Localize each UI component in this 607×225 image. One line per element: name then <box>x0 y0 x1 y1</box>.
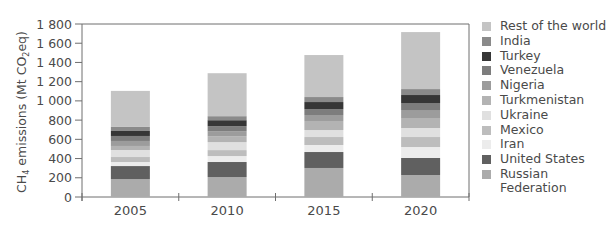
legend-item: Rest of the world <box>482 19 607 34</box>
bar-segment-venezuela <box>401 103 440 110</box>
bar-segment-nigeria <box>111 141 150 146</box>
bars <box>111 32 440 197</box>
legend-swatch-icon <box>482 52 491 61</box>
legend-swatch-icon <box>482 22 491 31</box>
y-tick-label: 600 <box>48 132 72 147</box>
bar-segment-india <box>401 89 440 95</box>
bar-segment-iran <box>304 145 343 152</box>
x-tick-label: 2005 <box>114 203 147 218</box>
legend-swatch-icon <box>482 66 491 75</box>
bar-segment-india <box>111 127 150 131</box>
legend-swatch-icon <box>482 170 491 179</box>
bar-segment-mexico <box>208 150 247 156</box>
bar-segment-united-states <box>401 158 440 175</box>
bar-segment-venezuela <box>111 136 150 141</box>
bar-segment-ukraine <box>208 142 247 150</box>
bar-segment-iran <box>401 147 440 158</box>
bar-segment-nigeria <box>208 131 247 136</box>
y-tick-label: 400 <box>48 151 72 166</box>
legend-swatch-icon <box>482 37 491 46</box>
stacked-bar-chart: 02004006008001 0001 2001 4001 6001 800 2… <box>0 0 607 225</box>
legend-label: Russian Federation <box>500 167 567 196</box>
bar-segment-turkmenistan <box>304 121 343 130</box>
bar-2010 <box>208 73 247 197</box>
x-tick-label: 2015 <box>307 203 340 218</box>
bar-segment-united-states <box>111 166 150 179</box>
bar-segment-rest-of-the-world <box>111 91 150 127</box>
bar-2015 <box>304 55 343 197</box>
bar-segment-nigeria <box>304 115 343 121</box>
bar-segment-iran <box>208 156 247 162</box>
legend-label: Venezuela <box>500 63 564 78</box>
bar-segment-turkmenistan <box>401 118 440 128</box>
x-tick-label: 2020 <box>404 203 437 218</box>
bar-segment-iran <box>111 162 150 166</box>
legend-item: Turkey <box>482 49 607 64</box>
y-tick-label: 0 <box>64 190 72 205</box>
bar-segment-venezuela <box>208 126 247 131</box>
bar-segment-russian-federation <box>304 168 343 197</box>
y-tick-label: 1 600 <box>36 36 72 51</box>
legend-item: Ukraine <box>482 108 607 123</box>
bar-segment-ukraine <box>401 128 440 137</box>
legend-label: Mexico <box>500 123 544 138</box>
legend-item: Russian Federation <box>482 167 607 196</box>
bar-2005 <box>111 91 150 197</box>
y-tick-label: 200 <box>48 170 72 185</box>
legend-item: Iran <box>482 137 607 152</box>
legend-swatch-icon <box>482 81 491 90</box>
legend-item: Turkmenistan <box>482 93 607 108</box>
legend-label: Turkmenistan <box>500 93 584 108</box>
bar-2020 <box>401 32 440 197</box>
legend-label: United States <box>500 152 585 167</box>
bar-segment-rest-of-the-world <box>208 73 247 116</box>
legend-label: India <box>500 34 531 49</box>
legend-label: Rest of the world <box>500 19 606 34</box>
bar-segment-rest-of-the-world <box>304 55 343 97</box>
legend-swatch-icon <box>482 140 491 149</box>
legend-item: Mexico <box>482 123 607 138</box>
x-tick-label: 2010 <box>211 203 244 218</box>
bar-segment-united-states <box>304 152 343 168</box>
legend-label: Nigeria <box>500 78 545 93</box>
legend-swatch-icon <box>482 111 491 120</box>
bar-segment-venezuela <box>304 109 343 115</box>
y-tick-label: 800 <box>48 113 72 128</box>
legend-item: India <box>482 34 607 49</box>
bar-segment-russian-federation <box>401 175 440 197</box>
bar-segment-nigeria <box>401 110 440 118</box>
y-tick-label: 1 800 <box>36 17 72 32</box>
bar-segment-turkey <box>208 120 247 126</box>
bar-segment-turkmenistan <box>208 136 247 142</box>
bar-segment-russian-federation <box>111 179 150 197</box>
legend-label: Ukraine <box>500 108 548 123</box>
legend-item: Nigeria <box>482 78 607 93</box>
y-tick-label: 1 200 <box>36 74 72 89</box>
legend-swatch-icon <box>482 155 491 164</box>
legend-item: United States <box>482 152 607 167</box>
legend-label: Iran <box>500 137 524 152</box>
legend-item: Venezuela <box>482 63 607 78</box>
bar-segment-turkmenistan <box>111 146 150 150</box>
y-axis-label: CH4 emissions (Mt CO2eq) <box>14 31 31 193</box>
legend-swatch-icon <box>482 96 491 105</box>
bar-segment-rest-of-the-world <box>401 32 440 89</box>
y-tick-label: 1 000 <box>36 93 72 108</box>
bar-segment-mexico <box>401 137 440 147</box>
y-tick-label: 1 400 <box>36 55 72 70</box>
legend-swatch-icon <box>482 126 491 135</box>
bar-segment-india <box>208 116 247 120</box>
bar-segment-russian-federation <box>208 177 247 197</box>
bar-segment-mexico <box>111 157 150 162</box>
bar-segment-mexico <box>304 137 343 145</box>
legend: Rest of the worldIndiaTurkeyVenezuelaNig… <box>482 19 607 196</box>
bar-segment-turkey <box>111 131 150 136</box>
bar-segment-united-states <box>208 162 247 177</box>
bar-segment-ukraine <box>304 130 343 137</box>
bar-segment-turkey <box>401 95 440 103</box>
legend-label: Turkey <box>500 49 541 64</box>
bar-segment-india <box>304 97 343 102</box>
bar-segment-turkey <box>304 102 343 109</box>
bar-segment-ukraine <box>111 150 150 157</box>
